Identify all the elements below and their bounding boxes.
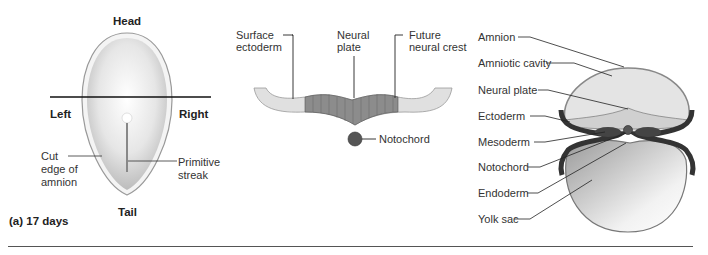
future-neural-crest-label-2: neural crest <box>409 41 466 54</box>
mesoderm-label: Mesoderm <box>478 136 530 149</box>
amniotic-cavity-label: Amniotic cavity <box>478 57 551 70</box>
right-label: Right <box>179 108 208 121</box>
primitive-streak-label-1: Primitive <box>178 156 220 169</box>
amnion-label: Amnion <box>478 31 515 44</box>
head-label: Head <box>113 15 141 28</box>
panel-caption: (a) 17 days <box>9 215 68 228</box>
cut-edge-label-3: amnion <box>41 176 77 189</box>
notochord-label: Notochord <box>379 133 430 146</box>
endoderm-label: Endoderm <box>478 187 529 200</box>
tail-label: Tail <box>118 206 137 219</box>
notochord-label-c: Notochord <box>478 161 529 174</box>
cut-edge-label-2: edge of <box>41 163 78 176</box>
primitive-streak-label-2: streak <box>178 169 208 182</box>
neural-plate-label-c: Neural plate <box>478 84 537 97</box>
cut-edge-label-1: Cut <box>41 150 58 163</box>
surface-ectoderm-label-2: ectoderm <box>236 41 282 54</box>
ectoderm-label: Ectoderm <box>478 110 525 123</box>
embryo-dorsal-view <box>82 33 172 195</box>
neural-plate-label-2: plate <box>337 41 361 54</box>
yolk-sac-label: Yolk sac <box>478 213 519 226</box>
embryo-cross-section <box>561 68 693 232</box>
bottom-divider <box>8 246 693 247</box>
left-label: Left <box>50 108 71 121</box>
